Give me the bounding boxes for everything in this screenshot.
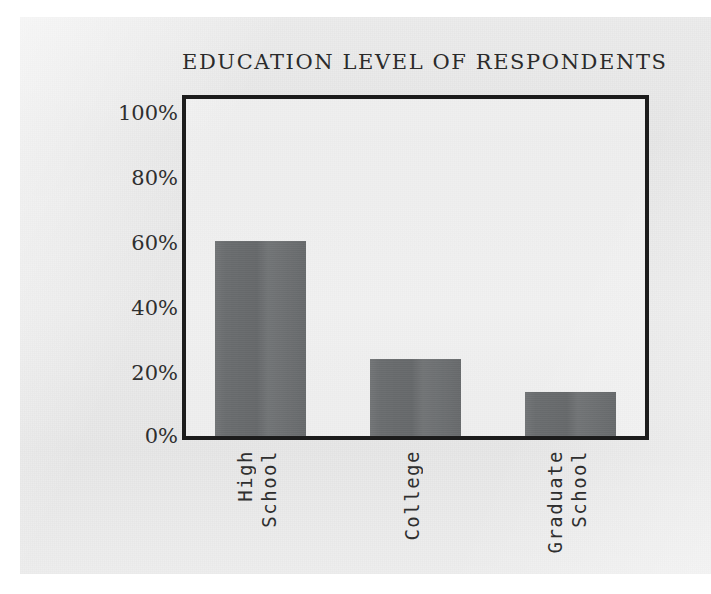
x-tick-line: High: [234, 450, 256, 502]
x-tick-line: School: [568, 450, 590, 528]
chart-title: EDUCATION LEVEL OF RESPONDENTS: [182, 50, 650, 74]
x-tick-line: College: [401, 450, 423, 541]
y-tick-label-100: 100%: [82, 101, 178, 125]
bar-graduate-school: [525, 392, 616, 436]
paper-background: EDUCATION LEVEL OF RESPONDENTS 100% 80% …: [20, 17, 711, 574]
bar-high-school: [215, 241, 306, 436]
x-tick-label-graduate-school: Graduate School: [521, 450, 612, 594]
x-tick-line: Graduate: [544, 450, 566, 554]
y-tick-label-60: 60%: [82, 231, 178, 255]
x-tick-line: School: [258, 450, 280, 528]
y-axis: 100% 80% 60% 40% 20% 0%: [82, 95, 178, 440]
y-tick-label-20: 20%: [82, 361, 178, 385]
x-tick-label-high-school: High School: [211, 450, 302, 594]
plot-area: [186, 99, 645, 436]
x-tick-label-college: College: [366, 450, 457, 594]
y-tick-label-0: 0%: [82, 424, 178, 448]
plot-frame: [182, 95, 649, 440]
y-tick-label-40: 40%: [82, 296, 178, 320]
bar-college: [370, 359, 461, 437]
scanned-page: EDUCATION LEVEL OF RESPONDENTS 100% 80% …: [0, 0, 711, 594]
y-tick-label-80: 80%: [82, 166, 178, 190]
x-axis: High School College Graduate School: [182, 440, 649, 594]
